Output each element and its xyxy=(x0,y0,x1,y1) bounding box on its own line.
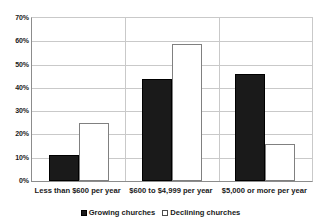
x-axis-labels: Less than $600 per year$600 to $4,999 pe… xyxy=(31,186,313,200)
bar-declining xyxy=(265,144,295,181)
chart-legend: Growing churchesDeclining churches xyxy=(0,208,321,217)
bar-growing xyxy=(49,155,79,181)
category-separator xyxy=(219,18,220,181)
open-square-icon xyxy=(162,210,168,216)
y-axis-tick-label: 60% xyxy=(3,37,29,44)
bar-declining xyxy=(172,44,202,181)
y-axis-tick-label: 30% xyxy=(3,107,29,114)
y-axis-tick-label: 70% xyxy=(3,14,29,21)
y-axis-labels: 0%10%20%30%40%50%60%70% xyxy=(0,17,29,182)
gridline xyxy=(32,41,312,42)
y-axis-tick-label: 50% xyxy=(3,61,29,68)
bar-growing xyxy=(235,74,265,181)
legend-label: Declining churches xyxy=(170,208,240,217)
legend-item[interactable]: Declining churches xyxy=(162,208,240,217)
plot-area xyxy=(31,17,313,182)
legend-label: Growing churches xyxy=(89,208,156,217)
category-separator xyxy=(125,18,126,181)
bar-growing xyxy=(142,79,172,182)
bar-chart: 0%10%20%30%40%50%60%70% Less than $600 p… xyxy=(0,0,321,223)
filled-square-icon xyxy=(81,210,87,216)
y-axis-tick-label: 40% xyxy=(3,84,29,91)
bar-declining xyxy=(79,123,109,181)
legend-item[interactable]: Growing churches xyxy=(81,208,156,217)
y-axis-tick-label: 20% xyxy=(3,130,29,137)
x-axis-category-label: $5,000 or more per year xyxy=(218,186,311,196)
x-axis-category-label: $600 to $4,999 per year xyxy=(124,186,217,196)
y-axis-tick-label: 10% xyxy=(3,154,29,161)
x-axis-category-label: Less than $600 per year xyxy=(31,186,124,196)
y-axis-tick-label: 0% xyxy=(3,177,29,184)
